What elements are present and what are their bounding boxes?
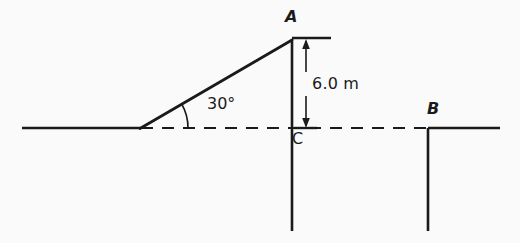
point-label-a: A bbox=[285, 9, 297, 25]
angle-arc-icon bbox=[182, 104, 188, 128]
physics-diagram-figure: A B C 6.0 m 30° bbox=[0, 0, 520, 243]
ramp-incline-line bbox=[140, 40, 292, 129]
incline-angle-label: 30° bbox=[207, 96, 235, 112]
arrow-down-icon bbox=[302, 118, 310, 128]
height-measurement-label: 6.0 m bbox=[312, 76, 359, 92]
point-label-b: B bbox=[427, 101, 439, 117]
arrow-up-icon bbox=[302, 39, 310, 49]
point-label-c: C bbox=[292, 131, 303, 147]
height-dimension-group bbox=[302, 39, 310, 128]
diagram-canvas bbox=[0, 0, 520, 243]
